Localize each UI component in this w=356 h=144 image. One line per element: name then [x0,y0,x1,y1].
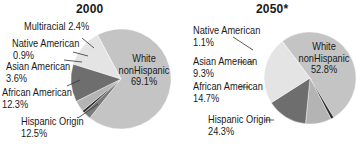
label-white-2050: White nonHispanic 52.8% [296,41,352,76]
label-multiracial-2000: Multiracial 2.4% [24,21,89,32]
pie-chart-2050: 2050* Native American 1.1% Asian America… [178,0,356,144]
label-native-2050: Native American [193,25,260,36]
chart-title-2050: 2050* [256,2,288,16]
value-native-2050: 1.1% [193,37,214,48]
label-asian-2000: Asian American [6,61,70,72]
value-african-2050: 14.7% [193,93,219,104]
pie-chart-2000: 2000 Multiracial 2.4% Native American 0.… [0,0,178,144]
label-african-2000: African American [2,87,72,98]
label-hispanic-2050: Hispanic Origin [208,114,271,125]
value-asian-2000: 3.6% [6,73,27,84]
value-hispanic-2050: 24.3% [208,126,234,137]
label-asian-2050: Asian American [193,56,257,67]
label-native-2000: Native American [12,38,79,49]
value-african-2000: 12.3% [2,99,28,110]
label-hispanic-2000: Hispanic Origin [21,116,84,127]
value-asian-2050: 9.3% [193,68,214,79]
value-hispanic-2000: 12.5% [21,128,47,139]
chart-title-2000: 2000 [76,2,104,16]
label-african-2050: African American [193,81,263,92]
label-white-2000: White nonHispanic 69.1% [118,53,171,88]
